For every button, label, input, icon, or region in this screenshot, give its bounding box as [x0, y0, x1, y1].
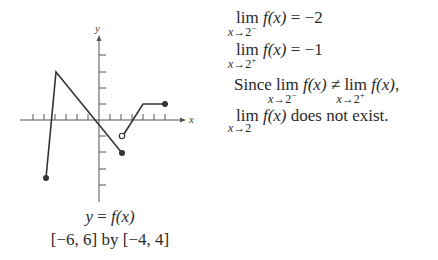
sub-side: + [360, 90, 365, 100]
y-axis-arrow-icon [97, 35, 102, 41]
equation-equals: = [93, 207, 111, 226]
limit-value: = −2 [287, 8, 323, 27]
right-limit-statement: limx→2+ f(x) = −1 [236, 40, 323, 60]
closed-endpoint [119, 150, 125, 156]
function-expr: f(x) [263, 40, 287, 59]
lim-subscript: x→2+ [336, 90, 364, 107]
limit-value: = −1 [287, 40, 323, 59]
equation-rhs: f(x) [111, 207, 135, 226]
right-piece [124, 104, 165, 134]
lim-subscript: x→2 [228, 121, 251, 136]
equation-lhs: y [85, 207, 93, 226]
conclusion-text: does not exist. [287, 106, 389, 125]
sub-arrow: →2 [233, 121, 251, 135]
lim-subscript: x→2− [228, 23, 256, 40]
x-axis-label: x [188, 113, 194, 125]
y-axis-label: y [94, 22, 100, 34]
sub-arrow: →2 [342, 92, 360, 106]
function-expr: f(x) [263, 8, 287, 27]
comma: , [395, 75, 399, 94]
conclusion-statement: limx→2 f(x) does not exist. [236, 106, 389, 126]
function-expr: f(x) [263, 106, 287, 125]
lim-subscript: x→2− [268, 90, 296, 107]
sub-arrow: →2 [233, 57, 251, 71]
function-expr: f(x) [371, 75, 395, 94]
sub-side: − [251, 23, 256, 33]
open-endpoint [119, 133, 124, 138]
since-statement: Since limx→2− f(x) ≠ limx→2+ f(x), [234, 75, 399, 95]
sub-side: − [291, 90, 296, 100]
function-expr: f(x) [303, 75, 327, 94]
sub-arrow: →2 [233, 25, 251, 39]
x-axis-arrow-icon [180, 118, 186, 123]
left-limit-statement: limx→2− f(x) = −2 [236, 8, 323, 28]
sub-arrow: →2 [273, 92, 291, 106]
left-piece [46, 72, 122, 178]
sub-side: + [251, 55, 256, 65]
closed-endpoint [162, 101, 168, 107]
lim-subscript: x→2+ [228, 55, 256, 72]
viewing-window: [−6, 6] by [−4, 4] [0, 230, 220, 250]
closed-endpoint [43, 175, 49, 181]
graph-equation: y = f(x) [0, 207, 220, 227]
function-graph: y x [0, 0, 220, 212]
